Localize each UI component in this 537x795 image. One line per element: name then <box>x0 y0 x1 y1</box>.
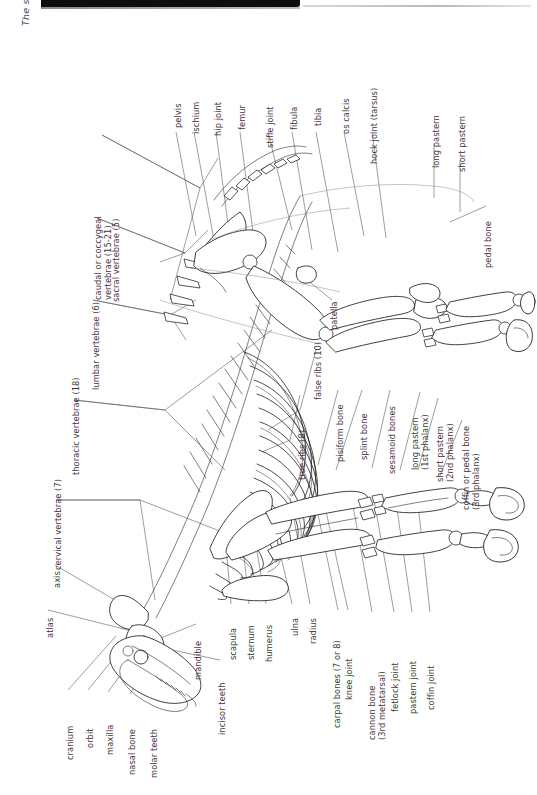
label-scapula: scapula <box>229 628 239 660</box>
label-cannon-bone: cannon bone (3rd metatarsal) <box>368 671 387 740</box>
label-pisiform-bone: pisiform bone <box>336 404 346 462</box>
label-coffin-joint: coffin joint <box>427 666 437 710</box>
label-short-pastern: short pastern <box>458 116 468 172</box>
label-ischium: ischium <box>192 102 202 134</box>
label-femur: femur <box>238 105 248 130</box>
label-true-ribs: true ribs (8) <box>298 430 308 480</box>
label-sacral-vertebrae: sacral vertebrae (5) <box>112 219 122 302</box>
label-short-pastern-2nd: short pastern (2nd phalanx) <box>436 423 455 482</box>
label-sesamoid-bones: sesamoid bones <box>388 406 398 474</box>
label-fibula: fibula <box>290 107 300 130</box>
label-ulna: ulna <box>291 618 301 636</box>
label-fetlock-joint: fetlock joint <box>391 662 401 712</box>
label-splint-bone: splint bone <box>360 413 370 460</box>
label-stifle-joint: stifle joint <box>266 106 276 148</box>
label-pastern-joint: pastern joint <box>409 661 419 714</box>
label-sternum: sternum <box>247 625 257 660</box>
label-pelvis: pelvis <box>174 103 184 128</box>
label-patella: patella <box>330 301 340 330</box>
label-atlas: atlas <box>46 618 56 638</box>
label-molar-teeth: molar teeth <box>150 729 160 778</box>
label-long-pastern: long pastern <box>432 115 442 168</box>
label-cervical-vertebrae: cervical vertebrae (7) <box>54 479 64 570</box>
label-carpal-bones: carpal bones (7 or 8) <box>333 640 343 728</box>
label-coffin-pedal-bone: coffin or pedal bone (3rd phalanx) <box>462 426 481 510</box>
label-axis: axis <box>53 571 63 588</box>
label-incisor-teeth: incisor teeth <box>218 682 228 735</box>
label-false-ribs: false ribs (10) <box>314 342 324 400</box>
label-lumbar-vertebrae: lumbar vertebrae (6) <box>92 302 102 390</box>
label-os-calcis: os calcis <box>342 98 352 134</box>
label-knee-joint: knee joint <box>345 658 355 700</box>
label-hip-joint: hip joint <box>214 102 224 136</box>
label-pedal-bone: pedal bone <box>484 221 494 268</box>
label-tibia: tibia <box>314 108 324 126</box>
label-thoracic-vertebrae: thoracic vertebrae (18) <box>72 377 82 475</box>
label-mandible: mandible <box>194 641 204 680</box>
label-orbit: orbit <box>86 728 96 748</box>
label-humerus: humerus <box>265 625 275 662</box>
skull-and-neck <box>110 595 201 711</box>
label-cranium: cranium <box>66 726 76 760</box>
label-nasal-bone: nasal bone <box>128 729 138 775</box>
label-radius: radius <box>309 618 319 644</box>
scanned-page: The skeleton. <box>0 0 537 795</box>
label-hock-joint: hock joint (tarsus) <box>370 88 380 164</box>
label-long-pastern-1st: long pastern (1st phalanx) <box>411 414 430 470</box>
label-maxilla: maxilla <box>106 725 116 755</box>
